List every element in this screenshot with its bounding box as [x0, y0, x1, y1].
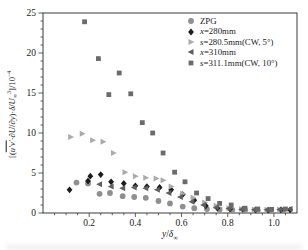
x-tick-label: 0.6	[176, 218, 188, 228]
y-tick-label: 25	[27, 8, 37, 18]
data-point-circle	[97, 191, 103, 197]
data-point-diamond	[98, 171, 104, 178]
data-point-triangle-left	[154, 187, 160, 193]
legend-label: x=280mm	[200, 26, 236, 36]
legend-label: ZPG	[200, 16, 217, 26]
legend-circle-icon	[186, 16, 196, 26]
data-point-triangle-left	[165, 190, 171, 196]
data-point-triangle-right	[68, 134, 74, 140]
data-point-triangle-right	[189, 39, 195, 45]
legend-label: x=310mm	[200, 47, 236, 57]
legend-triangle-left-icon	[186, 47, 196, 57]
data-point-triangle-right	[80, 131, 86, 137]
y-tick-label: 20	[27, 48, 37, 58]
data-point-circle	[74, 180, 80, 186]
legend-square-icon	[186, 58, 196, 68]
data-point-circle	[143, 195, 149, 201]
data-point-square	[150, 131, 155, 136]
y-tick-label: 0	[31, 208, 36, 218]
x-tick-label: 0.4	[129, 218, 141, 228]
legend-triangle-right-icon	[186, 37, 196, 47]
y-axis-label: [(u′v′·∂U/∂y)·δ/U∞3]/10−4	[6, 54, 19, 174]
y-tick-label: 10	[27, 128, 37, 138]
data-point-triangle-left	[188, 49, 194, 55]
data-point-triangle-left	[276, 206, 282, 212]
data-point-triangle-right	[90, 137, 96, 143]
x-axis-label: y/δ∞	[130, 229, 210, 241]
data-point-triangle-right	[101, 139, 107, 145]
data-point-square	[229, 203, 234, 208]
legend-item: x=280mm	[186, 26, 278, 36]
data-point-square	[117, 71, 122, 76]
data-point-square	[189, 60, 194, 65]
data-point-circle	[191, 205, 197, 211]
data-point-diamond	[67, 186, 73, 193]
legend-item: s=280.5mm(CW, 5°)	[186, 37, 278, 47]
data-point-triangle-left	[177, 194, 183, 200]
scatter-plot-figure: 0.20.40.60.81.00510152025 [(u′v′·∂U/∂y)·…	[0, 0, 308, 250]
legend-label: s=311.1mm(CW, 10°)	[200, 58, 278, 68]
data-point-diamond	[188, 28, 194, 35]
data-point-square	[172, 170, 177, 175]
legend-item: ZPG	[186, 16, 278, 26]
data-point-square	[106, 92, 111, 97]
data-point-square	[217, 201, 222, 206]
data-point-circle	[180, 204, 186, 210]
data-point-circle	[107, 190, 113, 196]
data-point-circle	[167, 201, 173, 207]
y-tick-label: 5	[31, 168, 36, 178]
legend-label: s=280.5mm(CW, 5°)	[200, 37, 273, 47]
data-point-square	[206, 196, 211, 201]
data-point-circle	[188, 18, 194, 24]
data-point-triangle-left	[264, 207, 270, 213]
data-point-square	[140, 120, 145, 125]
data-point-square	[243, 206, 248, 211]
data-point-square	[183, 179, 188, 184]
data-point-triangle-right	[161, 177, 167, 183]
data-point-square	[128, 91, 133, 96]
x-tick-label: 1.0	[268, 218, 280, 228]
data-point-triangle-right	[154, 176, 160, 182]
data-point-triangle-left	[119, 185, 125, 191]
data-point-square	[96, 56, 101, 61]
data-point-circle	[120, 193, 126, 199]
data-point-circle	[156, 198, 162, 204]
legend-diamond-icon	[186, 27, 196, 37]
data-point-triangle-right	[122, 169, 128, 175]
data-point-square	[194, 191, 199, 196]
data-point-circle	[131, 194, 137, 200]
legend-item: s=311.1mm(CW, 10°)	[186, 58, 278, 68]
data-point-square	[161, 151, 166, 156]
data-point-square	[269, 207, 274, 212]
y-tick-label: 15	[27, 88, 37, 98]
data-point-square	[82, 19, 87, 24]
data-point-triangle-left	[96, 181, 102, 187]
legend: ZPGx=280mms=280.5mm(CW, 5°)x=310mms=311.…	[186, 16, 278, 68]
x-tick-label: 0.2	[83, 218, 95, 228]
scan-artifact	[6, 245, 302, 249]
data-point-triangle-right	[143, 175, 149, 181]
data-point-diamond	[121, 180, 127, 187]
data-point-square	[283, 207, 288, 212]
data-point-square	[255, 207, 260, 212]
x-tick-label: 0.8	[222, 218, 234, 228]
legend-item: x=310mm	[186, 47, 278, 57]
data-point-triangle-right	[133, 173, 139, 179]
data-point-triangle-right	[111, 150, 117, 156]
